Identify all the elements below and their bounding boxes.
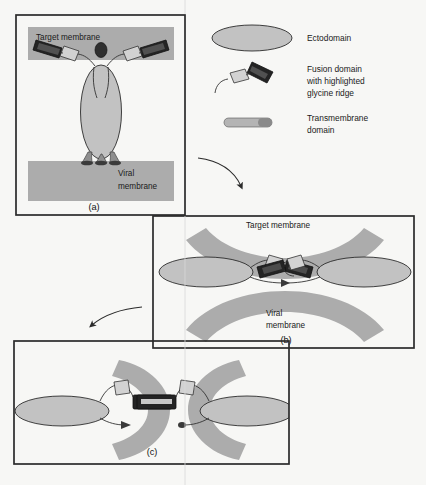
panel-c-ectodomain-right [200,396,294,426]
legend-capsule-icon [224,118,272,127]
panel-a-viral-membrane-label-line1: Viral [118,169,134,178]
panel-a-transmembrane-anchors [81,152,121,165]
panel-c: (c) [14,341,294,464]
panel-a-target-membrane-label: Target membrane [36,33,101,42]
legend-ellipse-icon [212,25,292,51]
panel-a: Target membrane Viral membrane (a) [16,15,185,215]
panel-b-target-membrane-label: Target membrane [246,221,311,230]
fusion-diagram: Target membrane Viral membrane (a) Ectod… [0,0,426,485]
legend-fusion-domain-icon [215,62,273,93]
legend: Ectodomain Fusion domain with highlighte… [212,25,368,135]
legend-label-fusion-line1: Fusion domain [307,64,362,74]
panel-a-head-knob [95,43,107,58]
panel-b-viral-membrane-label-line1: Viral [266,309,282,318]
figure-container: Target membrane Viral membrane (a) Ectod… [0,0,426,485]
legend-label-transmembrane-line2: domain [307,125,335,135]
panel-b: Target membrane Viral membrane (b) [153,216,414,348]
panel-a-ectodomain [81,65,122,159]
panel-a-caption: (a) [88,202,99,212]
panel-c-caption: (c) [147,447,158,457]
arrow-b-to-c [92,307,142,325]
arrow-a-to-b [198,158,241,186]
legend-label-fusion-line3: glycine ridge [307,88,354,98]
panel-b-ectodomain-right [317,257,411,287]
panel-b-caption: (b) [280,335,291,345]
panel-b-ectodomain-left [159,257,253,287]
legend-label-ectodomain: Ectodomain [307,33,352,43]
panel-b-viral-membrane-label-line2: membrane [266,321,306,330]
panel-a-viral-membrane-label-line2: membrane [118,182,158,191]
panel-a-viral-membrane [28,161,174,201]
panel-c-membrane-left [112,360,170,460]
legend-label-fusion-line2: with highlighted [306,76,365,86]
panel-c-ectodomain-left [15,396,109,426]
legend-label-transmembrane-line1: Transmembrane [307,113,368,123]
